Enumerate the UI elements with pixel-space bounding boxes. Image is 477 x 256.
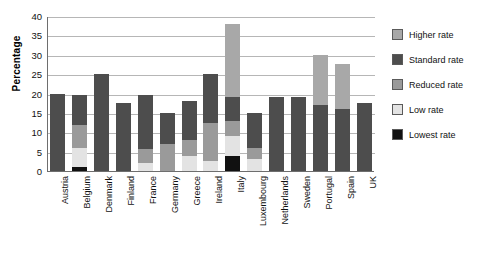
bar-column [335, 17, 350, 171]
y-axis-tick-label: 5 [10, 148, 42, 158]
bar-segment-standard-rate [357, 103, 372, 171]
x-axis-label-text: Luxembourg [259, 176, 268, 226]
x-axis-label-text: Greece [193, 176, 202, 206]
bar-segment-standard-rate [72, 95, 87, 124]
bar-column [50, 17, 65, 171]
legend-item[interactable]: Low rate [392, 97, 477, 122]
x-axis-label-text: Sweden [303, 176, 312, 209]
x-axis-label: UK [357, 174, 372, 250]
legend-swatch [392, 79, 403, 90]
bar-segment-reduced-rate [203, 123, 218, 162]
bar-segment-higher-rate [313, 55, 328, 105]
x-axis-label: Belgium [71, 174, 86, 250]
bar-segment-low-rate [182, 156, 197, 172]
x-axis-label: Netherlands [269, 174, 284, 250]
bar-segment-reduced-rate [225, 121, 240, 137]
bar-segment-lowest-rate [225, 156, 240, 172]
chart-root: Percentage 0510152025303540 AustriaBelgi… [0, 0, 477, 256]
plot-area [47, 17, 374, 172]
bar-column [182, 17, 197, 171]
y-axis-tick-label: 15 [10, 109, 42, 119]
y-axis-tick-label: 20 [10, 90, 42, 100]
bar-segment-standard-rate [225, 97, 240, 120]
chart-legend: Higher rateStandard rateReduced rateLow … [392, 22, 477, 147]
x-axis-label-text: Ireland [215, 176, 224, 204]
bar-column [94, 17, 109, 171]
x-axis-label-text: Germany [171, 176, 180, 213]
x-axis-category-labels: AustriaBelgiumDenmarkFinlandFranceGerman… [47, 174, 374, 250]
bar-segment-reduced-rate [247, 148, 262, 160]
bar-column [160, 17, 175, 171]
x-axis-label-text: UK [369, 176, 378, 189]
x-axis-label: Finland [115, 174, 130, 250]
bar-column [247, 17, 262, 171]
x-axis-label: Ireland [203, 174, 218, 250]
bar-column [357, 17, 372, 171]
x-axis-label: Italy [225, 174, 240, 250]
bar-column [313, 17, 328, 171]
bar-group [48, 17, 374, 171]
y-axis-tick-label: 10 [10, 128, 42, 138]
bar-segment-lowest-rate [72, 167, 87, 171]
bar-column [72, 17, 87, 171]
bar-segment-standard-rate [94, 74, 109, 171]
bar-segment-reduced-rate [72, 125, 87, 148]
y-axis-tick-label: 0 [10, 167, 42, 177]
bar-segment-standard-rate [269, 97, 284, 171]
legend-item[interactable]: Standard rate [392, 47, 477, 72]
legend-swatch [392, 54, 403, 65]
bar-segment-reduced-rate [160, 144, 175, 171]
legend-label: Low rate [409, 105, 444, 115]
x-axis-label: Austria [49, 174, 64, 250]
x-axis-label: Spain [335, 174, 350, 250]
x-axis-label: Denmark [93, 174, 108, 250]
x-axis-label: France [137, 174, 152, 250]
bar-segment-reduced-rate [182, 140, 197, 156]
bar-column [269, 17, 284, 171]
legend-item[interactable]: Lowest rate [392, 122, 477, 147]
x-axis-label: Greece [181, 174, 196, 250]
legend-item[interactable]: Higher rate [392, 22, 477, 47]
bar-segment-standard-rate [291, 97, 306, 171]
bar-column [138, 17, 153, 171]
legend-swatch [392, 129, 403, 140]
legend-label: Lowest rate [409, 130, 456, 140]
bar-segment-standard-rate [138, 95, 153, 149]
x-axis-label: Germany [159, 174, 174, 250]
x-axis-label-text: Finland [127, 176, 136, 206]
y-axis-tick-label: 35 [10, 31, 42, 41]
x-axis-label-text: Italy [237, 176, 246, 193]
bar-segment-reduced-rate [138, 149, 153, 163]
x-axis-label: Portugal [313, 174, 328, 250]
legend-item[interactable]: Reduced rate [392, 72, 477, 97]
y-axis-tick-label: 25 [10, 70, 42, 80]
y-axis-tick-label: 30 [10, 51, 42, 61]
bar-segment-standard-rate [116, 103, 131, 171]
bar-segment-low-rate [247, 159, 262, 171]
bar-segment-higher-rate [335, 64, 350, 109]
bar-column [203, 17, 218, 171]
x-axis-label: Sweden [291, 174, 306, 250]
x-axis-label-text: Denmark [105, 176, 114, 213]
bar-column [225, 17, 240, 171]
bar-segment-low-rate [72, 148, 87, 167]
x-axis-label-text: Austria [61, 176, 70, 204]
bar-segment-standard-rate [335, 109, 350, 171]
x-axis-label-text: Portugal [325, 176, 334, 210]
bar-segment-standard-rate [313, 105, 328, 171]
bar-segment-standard-rate [50, 94, 65, 172]
legend-label: Higher rate [409, 30, 454, 40]
x-axis-label-text: Netherlands [281, 176, 290, 225]
x-axis-label-text: Belgium [83, 176, 92, 209]
legend-label: Standard rate [409, 55, 464, 65]
legend-swatch [392, 104, 403, 115]
legend-label: Reduced rate [409, 80, 463, 90]
x-axis-label: Luxembourg [247, 174, 262, 250]
bar-segment-standard-rate [182, 101, 197, 140]
x-axis-label-text: Spain [347, 176, 356, 199]
bar-segment-standard-rate [160, 113, 175, 144]
bar-segment-low-rate [203, 161, 218, 171]
bar-segment-low-rate [225, 136, 240, 155]
bar-column [291, 17, 306, 171]
bar-segment-higher-rate [225, 24, 240, 98]
